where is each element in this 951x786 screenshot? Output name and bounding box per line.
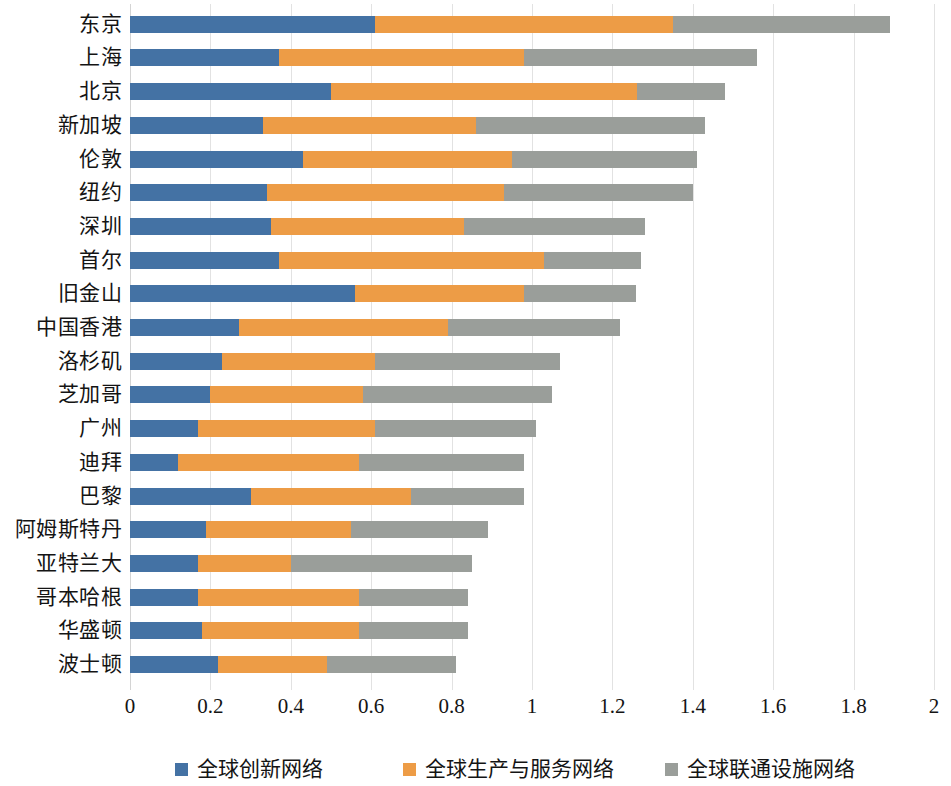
bar-segment[interactable] [359,454,524,471]
stacked-bar[interactable] [130,218,645,235]
bar-segment[interactable] [210,386,363,403]
category-label: 上海 [0,47,122,68]
bar-segment[interactable] [130,319,239,336]
legend-swatch-icon [403,763,416,776]
bar-segment[interactable] [351,521,488,538]
bar-segment[interactable] [512,151,697,168]
bar-segment[interactable] [130,184,267,201]
bar-segment[interactable] [271,218,464,235]
stacked-bar[interactable] [130,49,757,66]
stacked-bar[interactable] [130,386,552,403]
bar-segment[interactable] [267,184,504,201]
category-label: 波士顿 [0,654,122,675]
bar-segment[interactable] [222,353,375,370]
category-label: 新加坡 [0,115,122,136]
category-label: 华盛顿 [0,620,122,641]
bar-segment[interactable] [130,622,202,639]
stacked-bar[interactable] [130,319,620,336]
bar-segment[interactable] [130,49,279,66]
bar-segment[interactable] [206,521,351,538]
category-label: 哥本哈根 [0,587,122,608]
bar-segment[interactable] [178,454,359,471]
stacked-bar[interactable] [130,555,472,572]
legend-item[interactable]: 全球创新网络 [175,759,323,780]
bar-segment[interactable] [130,218,271,235]
bar-segment[interactable] [375,16,672,33]
x-axis-tick-label: 1.2 [599,696,625,717]
x-axis-tick-label: 0 [125,696,136,717]
bar-row: 洛杉矶 [0,345,951,379]
bar-segment[interactable] [291,555,472,572]
bar-row: 新加坡 [0,109,951,143]
bar-segment[interactable] [411,488,524,505]
stacked-bar[interactable] [130,622,468,639]
bar-segment[interactable] [327,656,456,673]
bar-segment[interactable] [130,117,263,134]
bar-segment[interactable] [130,386,210,403]
bar-segment[interactable] [359,589,468,606]
bar-segment[interactable] [375,353,560,370]
bar-segment[interactable] [279,252,544,269]
bar-segment[interactable] [130,83,331,100]
bar-segment[interactable] [375,420,536,437]
bar-segment[interactable] [130,285,355,302]
bar-segment[interactable] [130,555,198,572]
plot-area: 东京上海北京新加坡伦敦纽约深圳首尔旧金山中国香港洛杉矶芝加哥广州迪拜巴黎阿姆斯特… [0,0,951,690]
bar-segment[interactable] [218,656,327,673]
stacked-bar[interactable] [130,521,488,538]
stacked-bar[interactable] [130,488,524,505]
bar-segment[interactable] [130,16,375,33]
x-axis-tick-label: 1.8 [840,696,866,717]
stacked-bar[interactable] [130,151,697,168]
stacked-bar[interactable] [130,454,524,471]
bar-segment[interactable] [198,420,375,437]
stacked-bar[interactable] [130,589,468,606]
bar-row: 巴黎 [0,479,951,513]
bar-segment[interactable] [279,49,524,66]
stacked-bar[interactable] [130,353,560,370]
bar-segment[interactable] [130,521,206,538]
bar-segment[interactable] [331,83,637,100]
stacked-bar[interactable] [130,83,725,100]
bar-segment[interactable] [544,252,640,269]
bar-segment[interactable] [130,656,218,673]
bar-segment[interactable] [363,386,552,403]
bar-segment[interactable] [448,319,621,336]
bar-segment[interactable] [355,285,524,302]
stacked-bar[interactable] [130,117,705,134]
bar-segment[interactable] [263,117,476,134]
bar-segment[interactable] [476,117,705,134]
bar-row: 波士顿 [0,648,951,682]
bar-segment[interactable] [130,353,222,370]
bar-segment[interactable] [202,622,359,639]
stacked-bar[interactable] [130,16,890,33]
bar-segment[interactable] [239,319,448,336]
stacked-bar[interactable] [130,656,456,673]
legend-item[interactable]: 全球生产与服务网络 [403,759,614,780]
stacked-bar[interactable] [130,184,693,201]
bar-segment[interactable] [673,16,890,33]
bar-segment[interactable] [524,49,757,66]
bar-segment[interactable] [637,83,725,100]
bar-row: 阿姆斯特丹 [0,513,951,547]
bar-segment[interactable] [303,151,512,168]
stacked-bar[interactable] [130,252,641,269]
bar-segment[interactable] [130,488,251,505]
bar-segment[interactable] [198,555,290,572]
stacked-bar[interactable] [130,285,637,302]
bar-segment[interactable] [130,589,198,606]
bar-segment[interactable] [198,589,359,606]
legend-swatch-icon [665,763,678,776]
bar-segment[interactable] [359,622,468,639]
bar-segment[interactable] [130,151,303,168]
bar-segment[interactable] [504,184,693,201]
x-axis-tick-label: 1 [527,696,538,717]
bar-segment[interactable] [524,285,637,302]
bar-segment[interactable] [130,454,178,471]
bar-segment[interactable] [251,488,412,505]
stacked-bar[interactable] [130,420,536,437]
legend-item[interactable]: 全球联通设施网络 [665,759,855,780]
bar-segment[interactable] [464,218,645,235]
bar-segment[interactable] [130,420,198,437]
bar-segment[interactable] [130,252,279,269]
